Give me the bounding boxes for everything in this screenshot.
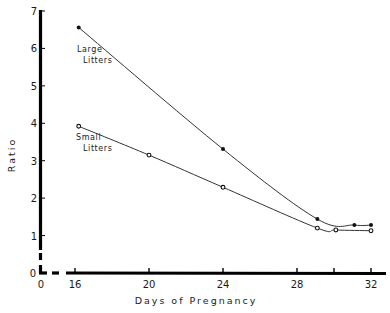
x-tick-label: 28 [291, 279, 304, 290]
line-chart: 0123456701620242832 Large Litters Small … [0, 0, 390, 313]
data-point-small-litters [334, 228, 338, 232]
y-tick-label: 3 [31, 156, 37, 167]
data-point-small-litters [221, 185, 225, 189]
annotation-small-litters-line1: Small [76, 133, 101, 142]
x-tick-label: 20 [143, 279, 156, 290]
data-point-large-litters [369, 223, 373, 227]
data-point-small-litters [147, 153, 151, 157]
y-tick-label: 0 [30, 268, 36, 279]
data-point-large-litters [77, 25, 81, 29]
series-line-small-litters [79, 126, 371, 231]
data-point-large-litters [221, 147, 225, 151]
x-tick-label: 16 [69, 279, 82, 290]
annotation-small-litters-line2: Litters [83, 144, 113, 153]
y-tick-label: 7 [31, 6, 37, 17]
series-lines [79, 27, 371, 231]
y-tick-label: 4 [31, 118, 37, 129]
y-tick-label: 5 [31, 81, 37, 92]
x-tick-label: 32 [365, 279, 378, 290]
data-point-large-litters [315, 217, 319, 221]
x-tick-label: 24 [217, 279, 230, 290]
x-axis-line [66, 273, 386, 274]
y-axis-title: Ratio [6, 138, 17, 172]
y-tick-label: 1 [31, 231, 37, 242]
data-points [77, 25, 373, 232]
y-tick-label: 2 [31, 193, 37, 204]
data-point-large-litters [352, 223, 356, 227]
annotation-large-litters-line1: Large [77, 45, 103, 54]
data-point-small-litters [369, 229, 373, 233]
annotation-large-litters-line2: Litters [83, 56, 113, 65]
series-line-large-litters [79, 27, 371, 226]
x-axis-title: Days of Pregnancy [135, 295, 258, 306]
data-point-small-litters [77, 124, 81, 128]
y-tick-label: 6 [31, 43, 37, 54]
data-point-small-litters [315, 226, 319, 230]
x-tick-label: 0 [38, 279, 44, 290]
